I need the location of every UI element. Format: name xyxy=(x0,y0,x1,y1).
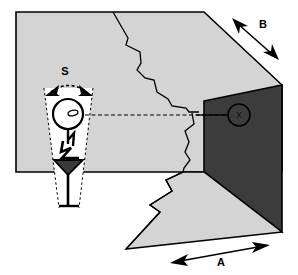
diagram-root: X B xyxy=(0,0,298,275)
diagram-canvas: X B xyxy=(0,0,298,275)
dimension-b-label: B xyxy=(259,18,267,30)
dimension-a-label: A xyxy=(217,256,225,268)
span-s-label: S xyxy=(61,65,68,77)
target-x-label: X xyxy=(236,110,242,120)
